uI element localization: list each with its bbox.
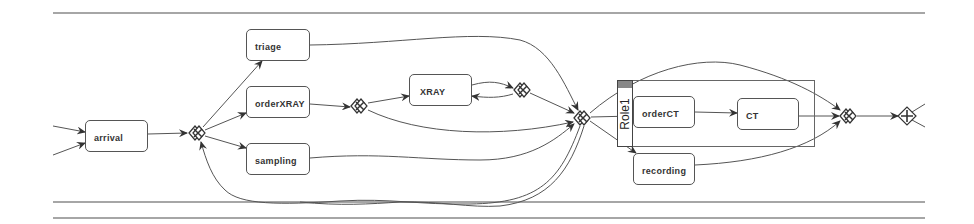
edge-orderXRAY-g2[interactable] bbox=[310, 104, 350, 107]
edge-g2-xray[interactable] bbox=[368, 96, 409, 103]
activity-label: sampling bbox=[255, 156, 297, 166]
xor-gateway-icon[interactable] bbox=[351, 99, 367, 113]
edge-g1-sampling[interactable] bbox=[205, 136, 246, 148]
xor-gateway-icon[interactable] bbox=[189, 126, 205, 140]
activity-label: arrival bbox=[94, 133, 123, 143]
activity-label: XRAY bbox=[420, 87, 445, 97]
activity-xray[interactable]: XRAY bbox=[409, 74, 472, 106]
activity-label: orderCT bbox=[642, 109, 679, 119]
edge-arrival-g1[interactable] bbox=[148, 133, 187, 134]
activity-orderxray[interactable]: orderXRAY bbox=[246, 86, 310, 118]
xor-gateway-icon[interactable] bbox=[514, 83, 530, 97]
edge-g3-xray[interactable] bbox=[472, 94, 513, 97]
and-gateway-icon[interactable] bbox=[898, 107, 916, 125]
edge-g3-g4[interactable] bbox=[530, 93, 574, 113]
edge-out-1[interactable] bbox=[912, 104, 925, 112]
role-label: Role1 bbox=[618, 98, 632, 129]
activity-triage[interactable]: triage bbox=[246, 29, 310, 61]
role-lane-header[interactable]: Role1 bbox=[617, 80, 633, 147]
activity-label: orderXRAY bbox=[255, 99, 305, 109]
edge-g1-orderXRAY[interactable] bbox=[205, 113, 246, 130]
edge-in-1[interactable] bbox=[53, 126, 85, 132]
process-diagram-canvas bbox=[0, 0, 974, 224]
edge-out-2[interactable] bbox=[912, 120, 925, 127]
activity-recording[interactable]: recording bbox=[633, 153, 695, 185]
activity-label: CT bbox=[746, 111, 759, 121]
edge-in-2[interactable] bbox=[53, 143, 85, 155]
xor-gateway-icon[interactable] bbox=[840, 109, 856, 123]
xor-gateway-icon[interactable] bbox=[574, 111, 590, 125]
edge-xray-g3[interactable] bbox=[472, 82, 513, 88]
activity-arrival[interactable]: arrival bbox=[85, 120, 148, 152]
activity-label: recording bbox=[642, 166, 686, 176]
activity-label: triage bbox=[255, 42, 281, 52]
activity-sampling[interactable]: sampling bbox=[246, 143, 310, 175]
activity-orderct[interactable]: orderCT bbox=[633, 96, 695, 128]
activity-ct[interactable]: CT bbox=[737, 98, 799, 130]
edge-loop-secondary bbox=[300, 126, 584, 206]
role-header-strip bbox=[618, 81, 632, 88]
edge-g2-g4[interactable] bbox=[368, 110, 573, 132]
